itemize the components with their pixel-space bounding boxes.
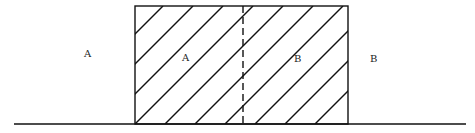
hatched-rectangle bbox=[135, 6, 348, 124]
label-inner-left: A bbox=[181, 52, 190, 63]
diagram-canvas: A A B B bbox=[0, 0, 475, 133]
label-outer-left: A bbox=[83, 48, 92, 59]
label-outer-right: B bbox=[370, 53, 377, 64]
label-inner-right: B bbox=[294, 53, 301, 64]
diagonal-hatching bbox=[45, 6, 433, 124]
